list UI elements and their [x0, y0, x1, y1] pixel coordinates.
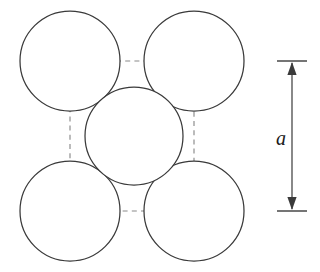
arrowhead-up-icon	[287, 62, 296, 75]
figure-canvas: a	[0, 0, 320, 272]
crystal-structure-figure: a	[0, 0, 320, 272]
lattice-parameter-dimension: a	[276, 61, 307, 211]
arrowhead-down-icon	[287, 197, 296, 210]
body-center-atom	[85, 87, 183, 185]
lattice-parameter-label: a	[276, 127, 286, 149]
